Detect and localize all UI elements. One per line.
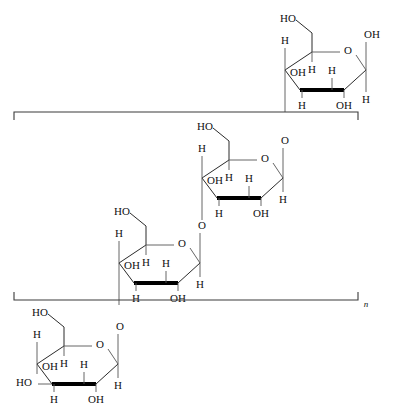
ring-oxygen-label-u4: O xyxy=(96,338,104,350)
top-bracket xyxy=(14,112,358,120)
ringo-c1-bond-u3 xyxy=(190,248,200,263)
ringo-c1-bond-u4 xyxy=(108,349,118,364)
glucose-unit-1: HO O H H OH H H xyxy=(280,12,380,112)
c6-arm-bond-u3 xyxy=(130,213,146,245)
c1-hydrogen-label-u4: H xyxy=(114,379,122,391)
c4-hydroxyl-label-u4: OH xyxy=(42,360,58,372)
glycosidic-oxygen-label-u3: O xyxy=(198,219,206,231)
c6-arm-bond-u2 xyxy=(213,128,229,160)
c2-hydrogen-label-u3: H xyxy=(162,257,170,269)
c4-hydrogen-label-u4: H xyxy=(33,328,41,340)
c5-hydrogen-label-u3: H xyxy=(142,256,150,268)
c6-hydroxyl-label-u2: HO xyxy=(197,120,213,132)
glucose-unit-3: HO O O H H OH H H OH H xyxy=(114,205,206,305)
ringo-c1-bond-u1 xyxy=(356,55,366,70)
c6-arm-bond-u4 xyxy=(48,314,64,346)
ring-oxygen-label-u2: O xyxy=(261,152,269,164)
c1-hydrogen-label-u1: H xyxy=(362,93,370,105)
c2-hydroxyl-label-u1: OH xyxy=(336,99,352,111)
c4-hydrogen-label-u1: H xyxy=(281,34,289,46)
ring-oxygen-label-u1: O xyxy=(344,44,352,56)
c6-arm-bond-u1 xyxy=(296,20,312,52)
polysaccharide-structure-diagram: HO O H H OH H H xyxy=(0,0,393,410)
c3-hydrogen-label-u3: H xyxy=(132,292,140,304)
bottom-bracket xyxy=(14,292,358,300)
c5-hydrogen-label-u2: H xyxy=(225,171,233,183)
c5-hydrogen-label-u1: H xyxy=(308,63,316,75)
c1-hydroxyl-label-u1: OH xyxy=(364,28,380,40)
polymer-repeat-brackets: n xyxy=(14,112,369,309)
structure-canvas: HO O H H OH H H xyxy=(0,0,393,410)
c2-hydrogen-label-u2: H xyxy=(245,172,253,184)
c6-hydroxyl-label-u4: HO xyxy=(32,306,48,318)
c5-hydrogen-label-u4: H xyxy=(60,357,68,369)
c1-c2-bond-u1 xyxy=(344,70,366,90)
c4-hydroxyl-label-u1: OH xyxy=(290,66,306,78)
c1-hydrogen-label-u3: H xyxy=(196,278,204,290)
terminal-hydroxyl-label-u4: HO xyxy=(16,376,32,388)
c6-hydroxyl-label-u3: HO xyxy=(114,205,130,217)
glycosidic-oxygen-label-u4: O xyxy=(116,320,124,332)
c2-hydrogen-label-u4: H xyxy=(80,358,88,370)
c3-hydrogen-label-u2: H xyxy=(215,207,223,219)
c4-hydrogen-label-u3: H xyxy=(115,227,123,239)
c2-hydroxyl-label-u4: OH xyxy=(88,393,104,405)
c4-hydroxyl-label-u2: OH xyxy=(207,174,223,186)
glycosidic-oxygen-label-u2: O xyxy=(281,134,289,146)
c3-hydrogen-label-u4: H xyxy=(50,393,58,405)
glucose-unit-4: HO O O H H OH HO H H OH xyxy=(16,306,124,405)
c4-hydrogen-label-u2: H xyxy=(198,142,206,154)
c6-hydroxyl-label-u1: HO xyxy=(280,12,296,24)
ring-oxygen-label-u3: O xyxy=(178,237,186,249)
ringo-c1-bond-u2 xyxy=(273,163,283,178)
glucose-unit-2: HO O O H H OH H H OH H xyxy=(197,120,289,220)
c4-hydroxyl-label-u3: OH xyxy=(124,259,140,271)
c2-hydrogen-label-u1: H xyxy=(328,64,336,76)
repeat-unit-subscript: n xyxy=(364,299,369,309)
c2-hydroxyl-label-u3: OH xyxy=(170,292,186,304)
c2-hydroxyl-label-u2: OH xyxy=(253,207,269,219)
c3-hydrogen-label-u1: H xyxy=(298,99,306,111)
c1-hydrogen-label-u2: H xyxy=(279,193,287,205)
